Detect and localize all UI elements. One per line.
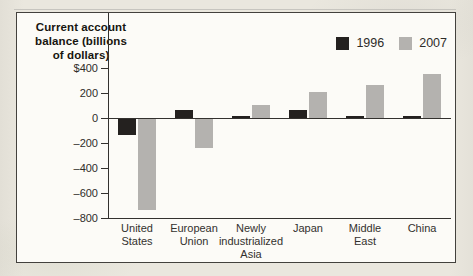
- bar-1996-european-union: [175, 110, 193, 118]
- zero-baseline: [108, 118, 451, 119]
- category-label-line: Asia: [203, 248, 299, 261]
- bar-2007-china: [423, 74, 441, 118]
- bar-2007-middle-east: [366, 85, 384, 118]
- category-label-line: China: [374, 222, 470, 235]
- bar-2007-japan: [309, 92, 327, 118]
- y-tick-mark--200: [101, 143, 108, 144]
- y-tick-label--600: –600: [50, 187, 98, 200]
- y-tick-label-200: 200: [50, 87, 98, 100]
- y-tick-label-400: $400: [50, 62, 98, 75]
- y-axis-line: [108, 13, 109, 219]
- bar-2007-newly-industrialized-asia: [252, 105, 270, 118]
- scanned-page-background: Current account balance (billions of dol…: [0, 0, 473, 276]
- page-rule-line: [14, 9, 456, 10]
- y-tick-mark-0: [101, 118, 108, 119]
- bar-2007-european-union: [195, 119, 213, 148]
- plot-bottom-line: [108, 218, 451, 219]
- y-tick-label--400: –400: [50, 162, 98, 175]
- y-tick-label-0: 0: [50, 112, 98, 125]
- y-tick-mark--400: [101, 168, 108, 169]
- plot-area: $4002000–200–400–600–800UnitedStatesEuro…: [17, 13, 455, 262]
- bar-1996-china: [403, 116, 421, 118]
- bar-2007-united-states: [138, 119, 156, 210]
- y-tick-mark-200: [101, 93, 108, 94]
- bar-1996-middle-east: [346, 116, 364, 118]
- category-label-china: China: [374, 222, 470, 235]
- y-tick-mark--600: [101, 193, 108, 194]
- y-tick-mark--800: [101, 218, 108, 219]
- bar-1996-newly-industrialized-asia: [232, 116, 250, 118]
- bar-1996-united-states: [118, 119, 136, 135]
- y-tick-label--200: –200: [50, 137, 98, 150]
- category-label-line: industrialized: [203, 235, 299, 248]
- category-label-line: East: [317, 235, 413, 248]
- bar-1996-japan: [289, 110, 307, 118]
- chart-panel: Current account balance (billions of dol…: [16, 12, 456, 263]
- y-tick-mark-400: [101, 68, 108, 69]
